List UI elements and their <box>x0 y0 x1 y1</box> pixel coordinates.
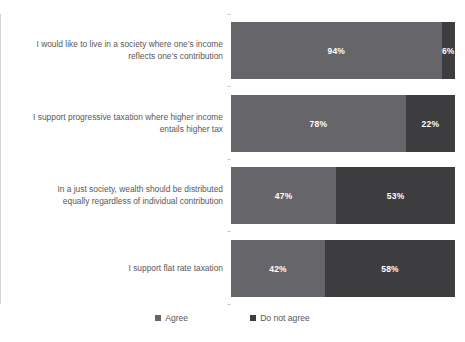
category-label-line: I support flat rate taxation <box>4 263 223 275</box>
bar-value-label: 22% <box>422 119 440 129</box>
bar-segment-agree[interactable]: 47% <box>231 167 336 224</box>
axis-tick <box>227 231 231 232</box>
bar-value-label: 94% <box>327 46 345 56</box>
bar-value-label: 47% <box>275 191 293 201</box>
category-label: I support flat rate taxation <box>4 240 223 297</box>
category-label-line: entails higher tax <box>4 124 223 136</box>
bar-segment-do-not-agree[interactable]: 6% <box>442 22 455 79</box>
category-label-line: I would like to live in a society where … <box>4 39 223 51</box>
bar-segment-agree[interactable]: 42% <box>231 240 325 297</box>
stacked-bar-chart: I would like to live in a society where … <box>0 0 465 342</box>
axis-tick <box>227 304 231 305</box>
bar-segment-do-not-agree[interactable]: 22% <box>406 95 455 152</box>
category-axis-line <box>0 14 1 304</box>
category-label-line: equally regardless of individual contrib… <box>4 196 223 208</box>
axis-tick <box>227 159 231 160</box>
chart-legend: Agree Do not agree <box>0 313 465 323</box>
bar-row: 94% 6% <box>231 22 455 79</box>
axis-tick <box>227 86 231 87</box>
legend-label: Do not agree <box>260 313 310 323</box>
axis-tick <box>227 14 231 15</box>
bar-value-label: 6% <box>442 46 455 56</box>
category-label-line: reflects one’s contribution <box>4 51 223 63</box>
category-label-line: In a just society, wealth should be dist… <box>4 184 223 196</box>
bar-segment-agree[interactable]: 94% <box>231 22 442 79</box>
bar-row: 78% 22% <box>231 95 455 152</box>
legend-item-agree[interactable]: Agree <box>155 313 188 323</box>
bar-value-label: 58% <box>381 264 399 274</box>
legend-swatch-icon <box>155 315 161 321</box>
bar-row: 42% 58% <box>231 240 455 297</box>
bar-value-label: 78% <box>310 119 328 129</box>
legend-swatch-icon <box>250 315 256 321</box>
bar-value-label: 53% <box>387 191 405 201</box>
bar-value-label: 42% <box>269 264 287 274</box>
bar-segment-do-not-agree[interactable]: 58% <box>325 240 455 297</box>
category-label: I would like to live in a society where … <box>4 22 223 79</box>
category-label-line: I support progressive taxation where hig… <box>4 112 223 124</box>
category-label: I support progressive taxation where hig… <box>4 95 223 152</box>
bar-row: 47% 53% <box>231 167 455 224</box>
legend-item-do-not-agree[interactable]: Do not agree <box>250 313 310 323</box>
category-label: In a just society, wealth should be dist… <box>4 167 223 224</box>
bar-segment-do-not-agree[interactable]: 53% <box>336 167 455 224</box>
bar-segment-agree[interactable]: 78% <box>231 95 406 152</box>
legend-label: Agree <box>165 313 188 323</box>
